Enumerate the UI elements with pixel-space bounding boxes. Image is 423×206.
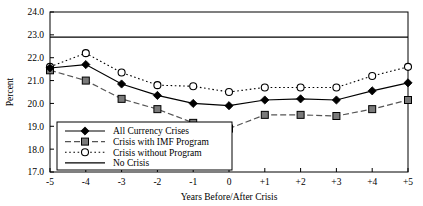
data-point [226, 89, 233, 96]
x-tick-label: +2 [296, 177, 306, 187]
legend: All Currency CrisesCrisis with IMF Progr… [57, 122, 232, 170]
x-axis: -5-4-3-2-10+1+2+3+4+5Years Before/After … [46, 168, 413, 202]
y-tick-label: 24.0 [27, 7, 44, 17]
x-tick-label: +5 [403, 177, 413, 187]
y-tick-label: 17.0 [27, 167, 44, 177]
series-line [50, 65, 408, 106]
y-tick-label: 18.0 [27, 145, 44, 155]
data-point [189, 99, 197, 107]
chart-container: 17.018.019.020.021.022.023.024.0Percent-… [0, 0, 423, 206]
data-point [369, 73, 376, 80]
data-point [118, 95, 125, 102]
data-point [261, 96, 269, 104]
data-point [333, 84, 340, 91]
data-point [404, 79, 412, 87]
y-tick-label: 19.0 [27, 122, 44, 132]
x-tick-label: -5 [46, 177, 54, 187]
data-point [154, 82, 161, 89]
data-point [190, 83, 197, 90]
x-axis-title: Years Before/After Crisis [181, 192, 278, 202]
x-tick-label: -1 [189, 177, 197, 187]
y-tick-label: 21.0 [27, 76, 44, 86]
x-tick-label: -2 [153, 177, 161, 187]
x-tick-label: +1 [260, 177, 270, 187]
data-point [297, 84, 304, 91]
data-point [368, 87, 376, 95]
y-axis: 17.018.019.020.021.022.023.024.0Percent [5, 7, 54, 177]
data-point [118, 69, 125, 76]
data-point [297, 111, 304, 118]
data-point [153, 91, 161, 99]
data-point [333, 113, 340, 120]
y-tick-label: 22.0 [27, 53, 44, 63]
data-point [82, 60, 90, 68]
data-point [405, 97, 412, 104]
series-0 [46, 60, 412, 109]
data-point [82, 50, 89, 57]
legend-marker [82, 149, 89, 156]
data-point [405, 63, 412, 70]
data-point [118, 80, 126, 88]
data-point [261, 111, 268, 118]
x-tick-label: -4 [82, 177, 90, 187]
legend-label: No Crisis [113, 158, 149, 168]
data-point [154, 106, 161, 113]
y-axis-title: Percent [5, 77, 15, 106]
data-point [369, 106, 376, 113]
y-tick-label: 23.0 [27, 30, 44, 40]
y-tick-label: 20.0 [27, 99, 44, 109]
data-point [261, 84, 268, 91]
legend-marker [82, 138, 89, 145]
x-tick-label: +3 [331, 177, 341, 187]
data-point [297, 95, 305, 103]
data-point [225, 102, 233, 110]
series-line [50, 53, 408, 92]
line-chart: 17.018.019.020.021.022.023.024.0Percent-… [0, 0, 423, 206]
legend-label: Crisis with IMF Program [113, 137, 209, 147]
legend-label: Crisis without Program [113, 148, 202, 158]
x-tick-label: -3 [118, 177, 126, 187]
data-point [82, 77, 89, 84]
series-line [50, 70, 408, 128]
x-tick-label: 0 [227, 177, 232, 187]
legend-label: All Currency Crises [113, 126, 189, 136]
data-point [332, 96, 340, 104]
x-tick-label: +4 [367, 177, 377, 187]
